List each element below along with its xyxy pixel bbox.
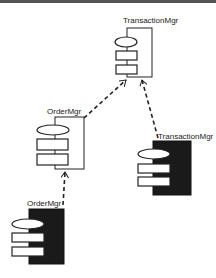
dependency-order-mid-to-txn-top	[84, 80, 126, 118]
component-label: OrderMgr	[27, 199, 62, 208]
component-port-rect	[138, 164, 170, 173]
component-port-ellipse	[37, 125, 69, 135]
component-port-rect	[138, 177, 170, 186]
component-label: OrderMgr	[47, 107, 82, 116]
dependency-order-bottom-to-order-mid	[63, 172, 65, 205]
component-port-ellipse	[138, 149, 170, 159]
component-port-rect	[12, 247, 44, 256]
component-port-rect	[12, 233, 44, 242]
component-port-rect	[116, 65, 137, 74]
component-label: TransactionMgr	[158, 132, 214, 141]
top-border	[0, 0, 216, 3]
component-port-rect	[116, 51, 137, 60]
component-ordermgr-bottom[interactable]: OrderMgr	[12, 199, 64, 264]
component-transactionmgr-top[interactable]: TransactionMgr	[115, 16, 179, 77]
component-label: TransactionMgr	[123, 16, 179, 25]
diagram-canvas: TransactionMgr OrderMgr TransactionMgr O…	[0, 0, 216, 278]
component-port-rect	[37, 139, 68, 150]
component-transactionmgr-right[interactable]: TransactionMgr	[138, 132, 214, 195]
dependency-txn-right-to-txn-top	[142, 80, 158, 138]
component-port-ellipse	[12, 219, 44, 229]
component-port-rect	[37, 154, 68, 165]
component-port-ellipse	[115, 37, 137, 47]
component-ordermgr-middle[interactable]: OrderMgr	[37, 107, 84, 169]
